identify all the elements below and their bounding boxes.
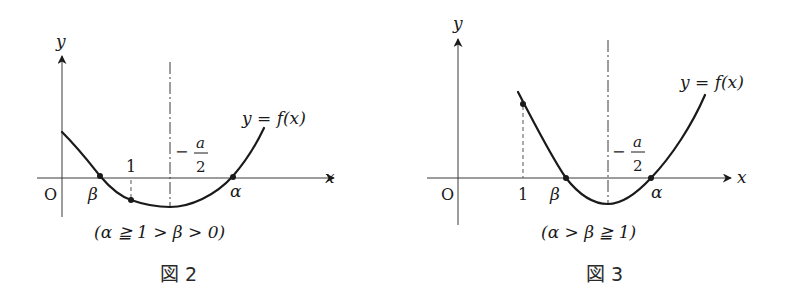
origin-label: O [441, 185, 454, 204]
alpha-label: α [651, 182, 663, 202]
curve-label: y = f(x) [679, 72, 744, 92]
condition-text: (α ≧ 1 > β > 0) [94, 222, 225, 242]
origin-label: O [44, 185, 57, 204]
figure-3: y x O − a 2 1 β α y = f(x) (α > β ≧ 1) 図… [427, 13, 747, 285]
point-x-1 [520, 101, 526, 107]
frac-numerator: a [196, 134, 205, 152]
tick-1-label: 1 [518, 185, 528, 204]
x-axis-label: x [737, 167, 747, 187]
root-beta-point [563, 175, 569, 181]
frac-numerator: a [633, 133, 642, 151]
figure-2: y x O − a 2 1 β α y = f(x) (α ≧ 1 > β > … [37, 31, 335, 285]
y-axis-label: y [55, 31, 66, 51]
root-alpha-point [230, 174, 236, 180]
tick-1-label: 1 [126, 157, 136, 176]
frac-denominator: 2 [633, 157, 643, 175]
figure-caption: 図 3 [586, 263, 623, 285]
figure-caption: 図 2 [160, 263, 197, 285]
x-axis-label: x [325, 167, 335, 187]
beta-label: β [549, 184, 560, 204]
beta-label: β [87, 184, 98, 204]
frac-denominator: 2 [196, 158, 206, 176]
curve-label: y = f(x) [241, 108, 306, 128]
condition-text: (α > β ≧ 1) [541, 222, 636, 242]
point-x-1 [128, 197, 134, 203]
root-beta-point [97, 173, 103, 179]
y-axis-label: y [452, 13, 463, 33]
neg-sign: − [612, 142, 625, 161]
root-alpha-point [648, 175, 654, 181]
alpha-label: α [230, 181, 242, 201]
diagram-canvas: y x O − a 2 1 β α y = f(x) (α ≧ 1 > β > … [0, 0, 797, 305]
neg-sign: − [175, 142, 188, 161]
